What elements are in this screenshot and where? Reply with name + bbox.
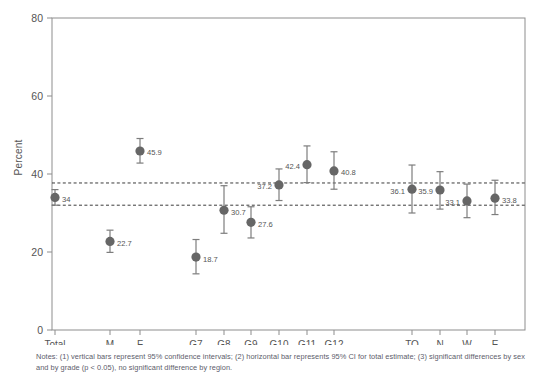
x-tick-label-M: M xyxy=(106,339,114,345)
x-tick-label-G12: G12 xyxy=(325,339,344,345)
point-value-label-M: 22.7 xyxy=(117,239,132,248)
data-point-F[interactable]: 45.9 xyxy=(135,139,161,164)
scatter-plot-svg: 020406080TotalMFG7G8G9G10G11G12TONWE3422… xyxy=(0,0,537,345)
data-point-E[interactable]: 33.8 xyxy=(490,180,516,214)
point-value-label-W: 33.1 xyxy=(445,198,460,207)
marker-G12[interactable] xyxy=(329,166,338,175)
y-tick-label-60: 60 xyxy=(31,90,43,102)
y-tick-label-20: 20 xyxy=(31,246,43,258)
figure-container: 020406080TotalMFG7G8G9G10G11G12TONWE3422… xyxy=(0,0,537,382)
data-point-G10[interactable]: 37.2 xyxy=(257,169,283,201)
y-axis-title: Percent xyxy=(13,118,24,198)
marker-G11[interactable] xyxy=(302,160,311,169)
point-value-label-N: 35.9 xyxy=(418,187,433,196)
y-tick-label-40: 40 xyxy=(31,168,43,180)
y-tick-label-80: 80 xyxy=(31,12,43,24)
marker-F[interactable] xyxy=(135,146,144,155)
data-point-G9[interactable]: 27.6 xyxy=(246,207,272,238)
data-point-G7[interactable]: 18.7 xyxy=(191,240,217,274)
point-value-label-TO: 36.1 xyxy=(390,187,405,196)
data-point-W[interactable]: 33.1 xyxy=(445,184,471,218)
marker-Total[interactable] xyxy=(50,193,59,202)
point-value-label-E: 33.8 xyxy=(502,196,517,205)
x-tick-label-Total: Total xyxy=(44,339,65,345)
marker-N[interactable] xyxy=(435,185,444,194)
marker-G9[interactable] xyxy=(246,218,255,227)
data-point-G8[interactable]: 30.7 xyxy=(219,186,245,234)
point-value-label-G10: 37.2 xyxy=(257,182,272,191)
point-value-label-Total: 34 xyxy=(62,195,70,204)
x-tick-label-G8: G8 xyxy=(217,339,231,345)
point-value-label-G12: 40.8 xyxy=(341,168,356,177)
point-value-label-F: 45.9 xyxy=(147,148,162,157)
x-tick-label-W: W xyxy=(462,339,472,345)
point-value-label-G11: 42.4 xyxy=(285,162,300,171)
data-point-Total[interactable]: 34 xyxy=(50,190,70,206)
marker-E[interactable] xyxy=(490,194,499,203)
data-point-N[interactable]: 35.9 xyxy=(418,172,444,209)
figure-notes: Notes: (1) vertical bars represent 95% c… xyxy=(36,352,528,373)
x-tick-label-G9: G9 xyxy=(244,339,258,345)
x-tick-label-TO: TO xyxy=(405,339,419,345)
x-tick-label-N: N xyxy=(436,339,443,345)
point-value-label-G9: 27.6 xyxy=(258,220,273,229)
data-point-M[interactable]: 22.7 xyxy=(105,230,131,252)
point-value-label-G8: 30.7 xyxy=(231,208,246,217)
x-tick-label-F: F xyxy=(137,339,143,345)
plot-frame xyxy=(52,18,525,330)
data-point-G12[interactable]: 40.8 xyxy=(329,152,355,189)
data-point-TO[interactable]: 36.1 xyxy=(390,165,416,213)
x-tick-label-G11: G11 xyxy=(298,339,317,345)
marker-G10[interactable] xyxy=(274,180,283,189)
y-tick-label-0: 0 xyxy=(37,324,43,336)
point-value-label-G7: 18.7 xyxy=(203,255,218,264)
x-tick-label-G7: G7 xyxy=(189,339,203,345)
marker-G7[interactable] xyxy=(191,252,200,261)
marker-M[interactable] xyxy=(105,237,114,246)
x-tick-label-E: E xyxy=(492,339,499,345)
chart-plot-area: 020406080TotalMFG7G8G9G10G11G12TONWE3422… xyxy=(0,0,537,345)
marker-TO[interactable] xyxy=(407,185,416,194)
x-tick-label-G10: G10 xyxy=(270,339,289,345)
marker-G8[interactable] xyxy=(219,206,228,215)
data-point-G11[interactable]: 42.4 xyxy=(285,146,311,183)
marker-W[interactable] xyxy=(462,196,471,205)
